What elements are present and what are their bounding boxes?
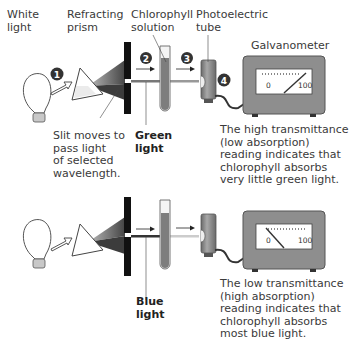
photoelectric-tube-icon (201, 60, 216, 103)
label-photoelectric-tube: Photoelectric tube (196, 9, 268, 34)
svg-text:4: 4 (221, 76, 227, 86)
label-high-transmittance: The high transmittance (low absorption) … (220, 124, 349, 187)
hollow-arrow-icon (51, 82, 72, 95)
slit-lower (124, 83, 131, 114)
label-chlorophyll-solution: Chlorophyll solution (131, 9, 193, 34)
svg-text:0: 0 (266, 81, 271, 90)
svg-text:2: 2 (143, 54, 149, 64)
label-blue-light: Blue light (136, 296, 165, 321)
svg-text:3: 3 (184, 54, 190, 64)
test-tube-icon (160, 46, 170, 111)
test-tube-icon (160, 200, 170, 269)
label-white-light: White light (7, 9, 39, 34)
slit-upper (124, 42, 131, 79)
label-slit: Slit moves to pass light of selected wav… (53, 130, 125, 180)
photoelectric-tube-icon (201, 214, 216, 257)
label-refracting-prism: Refracting prism (67, 9, 123, 34)
galvanometer-high-icon (243, 56, 325, 117)
svg-text:0: 0 (266, 236, 271, 245)
light-bulb-icon (23, 74, 51, 122)
hollow-arrow-icon (51, 238, 72, 251)
svg-text:100: 100 (298, 81, 313, 90)
label-galvanometer: Galvanometer (251, 40, 329, 53)
svg-text:100: 100 (298, 236, 313, 245)
label-low-transmittance: The low transmittance (high absorption) … (220, 278, 343, 341)
svg-text:1: 1 (54, 70, 60, 80)
label-green-light: Green light (135, 130, 172, 155)
light-bulb-icon (23, 220, 51, 268)
galvanometer-low-icon (243, 211, 325, 272)
